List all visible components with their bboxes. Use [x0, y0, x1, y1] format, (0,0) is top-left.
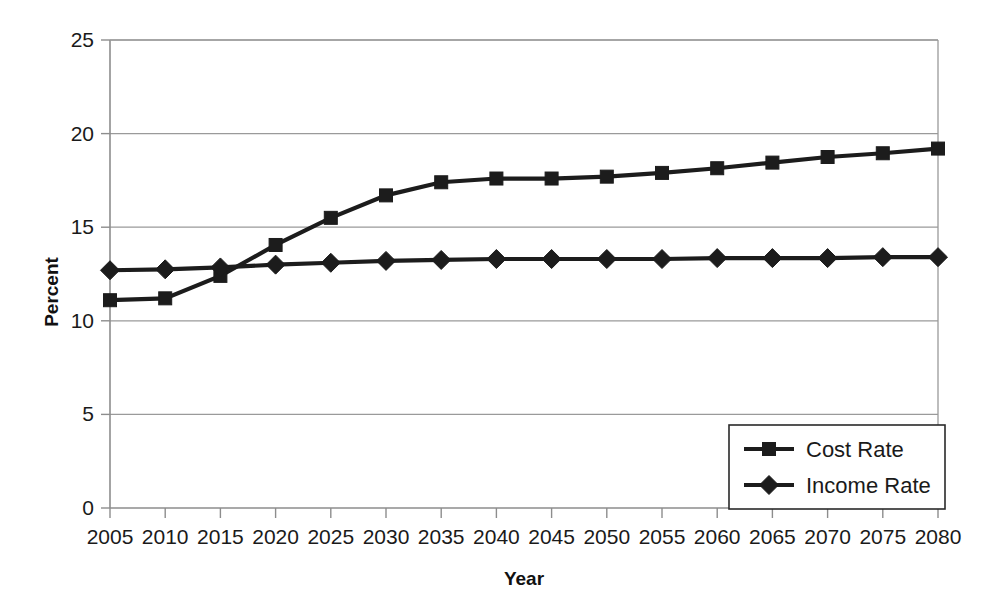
y-tick-label-20: 20	[71, 122, 94, 145]
cost-rate-marker-12	[766, 156, 779, 169]
x-tick-label-2055: 2055	[639, 525, 686, 548]
cost-rate-marker-5	[380, 189, 393, 202]
cost-rate-marker-10	[656, 166, 669, 179]
cost-rate-marker-3	[269, 238, 282, 251]
x-tick-label-2050: 2050	[583, 525, 630, 548]
cost-rate-marker-0	[104, 294, 117, 307]
x-tick-label-2010: 2010	[142, 525, 189, 548]
chart-legend[interactable]: Cost RateIncome Rate	[729, 425, 945, 509]
x-tick-label-2070: 2070	[804, 525, 851, 548]
y-tick-label-15: 15	[71, 215, 94, 238]
x-tick-label-2035: 2035	[418, 525, 465, 548]
line-chart: 0510152025 20052010201520202025203020352…	[0, 0, 996, 608]
x-tick-label-2005: 2005	[87, 525, 134, 548]
cost-rate-marker-4	[324, 211, 337, 224]
x-tick-label-2040: 2040	[473, 525, 520, 548]
cost-rate-marker-7	[490, 172, 503, 185]
legend-label-income-rate: Income Rate	[806, 473, 931, 498]
cost-rate-marker-8	[545, 172, 558, 185]
x-tick-label-2020: 2020	[252, 525, 299, 548]
chart-page: 0510152025 20052010201520202025203020352…	[0, 0, 996, 608]
x-tick-label-2030: 2030	[363, 525, 410, 548]
x-axis-title: Year	[504, 568, 545, 589]
y-axis-title: Percent	[41, 256, 62, 326]
cost-rate-marker-1	[159, 292, 172, 305]
chart-background	[0, 0, 996, 608]
y-tick-label-10: 10	[71, 309, 94, 332]
cost-rate-marker-11	[711, 162, 724, 175]
x-tick-label-2015: 2015	[197, 525, 244, 548]
y-tick-label-25: 25	[71, 28, 94, 51]
y-tick-label-0: 0	[82, 496, 94, 519]
x-tick-label-2075: 2075	[859, 525, 906, 548]
legend-label-cost-rate: Cost Rate	[806, 437, 904, 462]
cost-rate-marker-15	[932, 142, 945, 155]
cost-rate-marker-6	[435, 176, 448, 189]
cost-rate-marker-13	[821, 151, 834, 164]
cost-rate-marker-14	[876, 147, 889, 160]
x-tick-label-2045: 2045	[528, 525, 575, 548]
x-tick-label-2025: 2025	[307, 525, 354, 548]
x-tick-label-2065: 2065	[749, 525, 796, 548]
x-tick-label-2060: 2060	[694, 525, 741, 548]
cost-rate-marker-legend0	[763, 443, 776, 456]
x-tick-label-2080: 2080	[915, 525, 962, 548]
cost-rate-marker-9	[600, 170, 613, 183]
y-tick-label-5: 5	[82, 402, 94, 425]
